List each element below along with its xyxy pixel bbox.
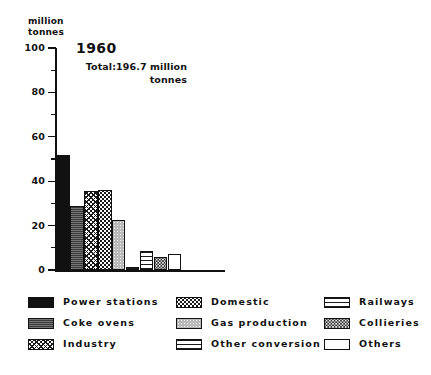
y-tick-major xyxy=(48,47,56,48)
legend-label: Railways xyxy=(359,296,415,308)
legend-swatch-speckle xyxy=(324,318,350,329)
legend-swatch-dots xyxy=(176,297,202,308)
y-tick-minor xyxy=(51,158,56,159)
legend-swatch-grey xyxy=(176,318,202,329)
legend-label: Gas production xyxy=(211,317,308,329)
y-tick-label: 80 xyxy=(13,86,45,97)
y-tick-major xyxy=(48,269,56,270)
y-tick-label: 100 xyxy=(13,42,45,53)
legend-label: Industry xyxy=(63,338,117,350)
y-tick-label: 60 xyxy=(13,131,45,142)
legend-swatch-white xyxy=(324,339,350,350)
y-tick-major xyxy=(48,225,56,226)
y-tick-major xyxy=(48,181,56,182)
y-tick-minor xyxy=(51,247,56,248)
chart-legend: Power stationsCoke ovensIndustryDomestic… xyxy=(28,296,420,358)
bar xyxy=(154,257,167,270)
y-tick-minor xyxy=(51,203,56,204)
chart-title: 1960 xyxy=(76,40,117,56)
y-tick-label: 20 xyxy=(13,220,45,231)
y-tick-label: 0 xyxy=(13,264,45,275)
legend-swatch-hlines xyxy=(324,297,350,308)
bar xyxy=(57,155,70,270)
legend-swatch-solid xyxy=(28,297,54,308)
y-tick-major xyxy=(48,136,56,137)
legend-label: Power stations xyxy=(63,296,158,308)
legend-swatch-dashrow xyxy=(176,339,202,350)
bar xyxy=(98,190,111,270)
bar xyxy=(168,254,181,270)
legend-swatch-crosshatch xyxy=(28,339,54,350)
bar xyxy=(112,220,125,270)
y-tick-major xyxy=(48,92,56,93)
legend-label: Other conversion xyxy=(211,338,321,350)
bar xyxy=(140,251,153,270)
legend-label: Coke ovens xyxy=(63,317,135,329)
legend-swatch-dark xyxy=(28,318,54,329)
bar xyxy=(84,191,97,270)
chart-total-label: Total:196.7 million tonnes xyxy=(62,60,187,86)
y-tick-minor xyxy=(51,114,56,115)
chart-panel-1979: 1979Total: 129.4 million tonnes020406080… xyxy=(213,0,431,290)
y-tick-label: 40 xyxy=(13,175,45,186)
chart-figure: million tonnes 1960Total:196.7 million t… xyxy=(0,0,431,375)
bar xyxy=(126,267,139,270)
bar xyxy=(70,206,83,270)
legend-label: Collieries xyxy=(359,317,420,329)
chart-panel-1960: 1960Total:196.7 million tonnes0204060801… xyxy=(0,0,215,290)
legend-label: Others xyxy=(359,338,402,350)
legend-label: Domestic xyxy=(211,296,270,308)
x-axis-line xyxy=(55,270,225,272)
y-tick-minor xyxy=(51,70,56,71)
